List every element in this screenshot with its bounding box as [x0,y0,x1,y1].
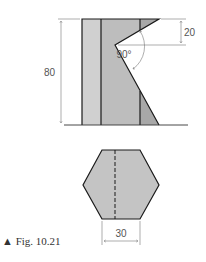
front-view-left-face [82,19,101,125]
figure-caption: ▲ Fig. 10.21 [2,235,61,247]
orthographic-drawing: 80 20 90° 30 [0,0,206,262]
dimension-20-label: 20 [184,27,196,38]
hexagon [83,150,159,219]
top-view [83,150,159,219]
angle-90-label: 90° [116,49,131,60]
dimension-width: 30 [102,221,140,245]
dimension-height: 80 [44,19,80,123]
front-view [64,19,188,125]
dimension-80-label: 80 [44,67,56,78]
dimension-30-label: 30 [115,228,127,239]
